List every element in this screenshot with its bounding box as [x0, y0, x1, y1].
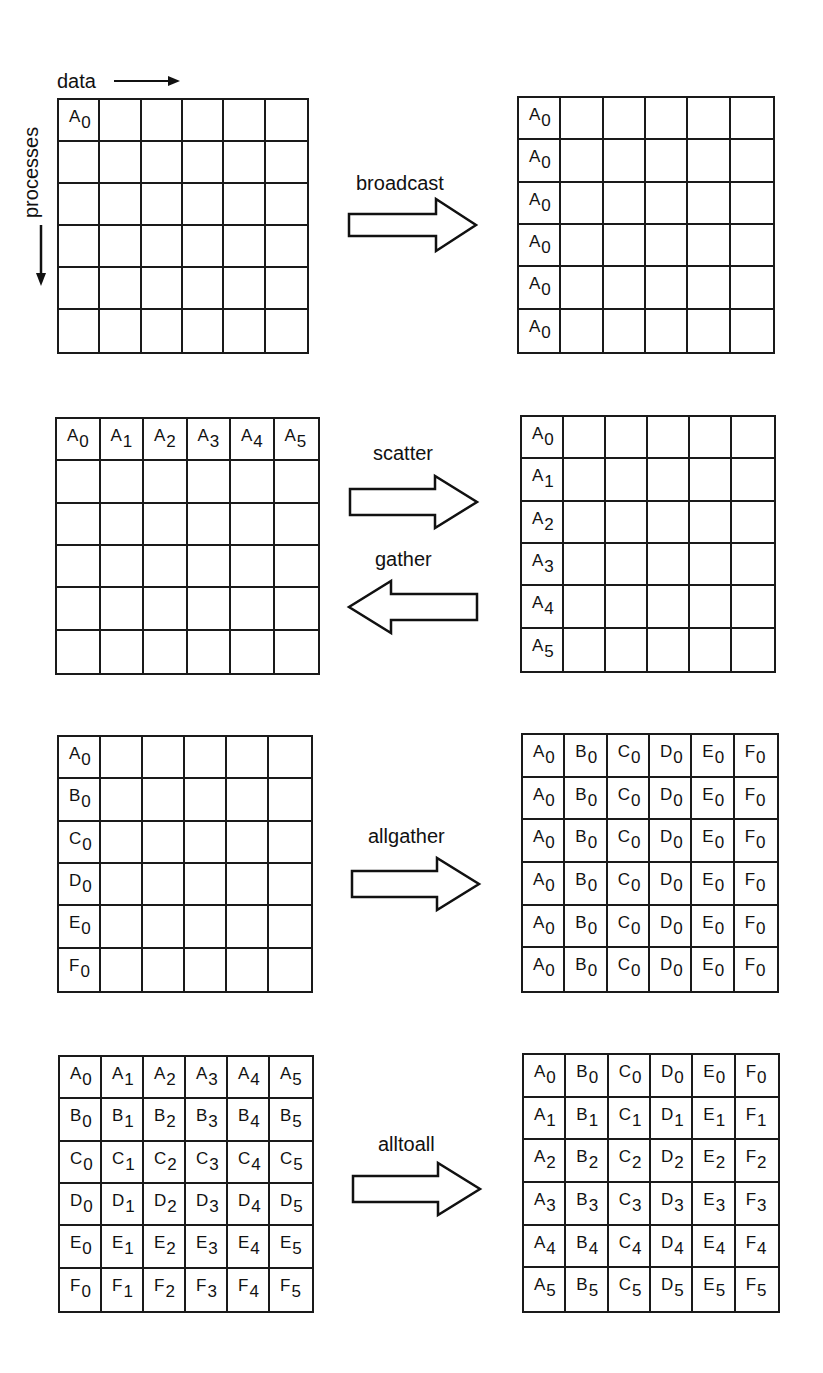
allgather-label: allgather: [368, 825, 445, 848]
allgather-after-grid: A0B0C0D0E0F0A0B0C0D0E0F0A0B0C0D0E0F0A0B0…: [521, 733, 779, 993]
cell-label: B0: [575, 786, 597, 803]
cell-label: C2: [154, 1150, 177, 1167]
grid-cell: [648, 544, 690, 586]
cell-label: A5: [532, 637, 554, 654]
grid-cell: [732, 629, 774, 671]
allgather-right-arrow-icon: [349, 855, 483, 913]
cell-label: B0: [575, 956, 597, 973]
cell-label: F0: [745, 786, 766, 803]
grid-cell: [561, 98, 603, 140]
grid-cell: B5: [270, 1099, 312, 1141]
cell-label: A0: [529, 106, 551, 123]
grid-cell: E0: [692, 863, 734, 906]
grid-cell: F0: [735, 778, 777, 821]
grid-cell: F3: [736, 1183, 778, 1226]
cell-label: B5: [280, 1107, 302, 1124]
grid-cell: [648, 586, 690, 628]
cell-label: A5: [285, 427, 307, 444]
grid-cell: [275, 588, 319, 630]
cell-label: C4: [238, 1150, 261, 1167]
grid-cell: F2: [144, 1269, 186, 1311]
grid-cell: [185, 779, 227, 821]
grid-cell: [275, 631, 319, 673]
grid-cell: [269, 864, 311, 906]
grid-cell: [143, 906, 185, 948]
cell-label: B0: [575, 828, 597, 845]
grid-cell: [646, 225, 688, 267]
grid-cell: A1: [524, 1098, 566, 1141]
grid-cell: [100, 226, 141, 268]
grid-cell: [561, 183, 603, 225]
cell-label: E0: [702, 914, 724, 931]
grid-cell: [688, 140, 730, 182]
grid-cell: [57, 631, 101, 673]
grid-cell: [143, 949, 185, 991]
grid-cell: [224, 310, 265, 352]
grid-cell: [648, 502, 690, 544]
cell-label: A0: [532, 425, 554, 442]
cell-label: E1: [703, 1106, 725, 1123]
grid-cell: [57, 546, 101, 588]
grid-cell: [142, 310, 183, 352]
grid-cell: [604, 140, 646, 182]
cell-label: C3: [196, 1150, 219, 1167]
grid-cell: [227, 737, 269, 779]
grid-cell: [646, 98, 688, 140]
cell-label: F0: [745, 956, 766, 973]
grid-cell: [144, 546, 188, 588]
cell-label: A3: [198, 427, 220, 444]
grid-cell: E3: [186, 1226, 228, 1268]
grid-cell: B2: [144, 1099, 186, 1141]
grid-cell: [59, 142, 100, 184]
grid-cell: B4: [228, 1099, 270, 1141]
grid-cell: C4: [609, 1226, 651, 1269]
grid-cell: A5: [524, 1268, 566, 1311]
cell-label: A0: [69, 745, 91, 762]
cell-label: A0: [529, 148, 551, 165]
grid-cell: [266, 226, 307, 268]
grid-cell: [101, 461, 145, 503]
grid-cell: [57, 504, 101, 546]
grid-cell: E3: [693, 1183, 735, 1226]
broadcast-after-grid: A0A0A0A0A0A0: [517, 96, 775, 354]
grid-cell: B0: [565, 863, 607, 906]
grid-cell: A0: [523, 820, 565, 863]
grid-cell: [101, 737, 143, 779]
grid-cell: B4: [566, 1226, 608, 1269]
grid-cell: [100, 142, 141, 184]
grid-cell: E0: [692, 778, 734, 821]
grid-cell: [188, 631, 232, 673]
grid-cell: [142, 184, 183, 226]
grid-cell: D0: [650, 820, 692, 863]
cell-label: A4: [532, 594, 554, 611]
grid-cell: A0: [523, 778, 565, 821]
cell-label: D2: [154, 1192, 177, 1209]
cell-label: C0: [619, 1063, 642, 1080]
grid-cell: A0: [519, 310, 561, 352]
cell-label: A0: [529, 191, 551, 208]
grid-cell: [606, 502, 648, 544]
grid-cell: [142, 226, 183, 268]
grid-cell: A0: [519, 98, 561, 140]
scatter-after-grid: A0A1A2A3A4A5: [520, 415, 776, 673]
grid-cell: E0: [692, 948, 734, 991]
grid-cell: [732, 502, 774, 544]
grid-cell: A4: [231, 419, 275, 461]
cell-label: D0: [660, 743, 683, 760]
cell-label: A1: [112, 1065, 134, 1082]
grid-cell: D0: [650, 863, 692, 906]
cell-label: A4: [238, 1065, 260, 1082]
grid-cell: [732, 459, 774, 501]
cell-label: F0: [745, 828, 766, 845]
grid-cell: A5: [275, 419, 319, 461]
grid-cell: A0: [523, 948, 565, 991]
cell-label: B0: [575, 871, 597, 888]
cell-label: F4: [238, 1277, 259, 1294]
cell-label: B2: [154, 1107, 176, 1124]
grid-cell: [690, 586, 732, 628]
cell-label: F1: [746, 1106, 767, 1123]
cell-label: E0: [70, 1234, 92, 1251]
grid-cell: [59, 226, 100, 268]
cell-label: D0: [660, 828, 683, 845]
cell-label: A4: [534, 1234, 556, 1251]
